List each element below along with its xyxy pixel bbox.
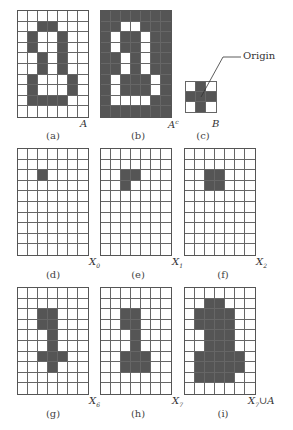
grid-cell (38, 341, 48, 352)
set-label-c: B (212, 118, 219, 129)
grid-cell (141, 191, 151, 202)
grid-cell (111, 330, 121, 341)
grid-cell (68, 383, 78, 394)
origin-label: Origin (243, 50, 275, 61)
grid-cell (141, 96, 151, 107)
grid-cell (235, 213, 245, 224)
grid-cell (18, 43, 28, 54)
grid-cell (141, 213, 151, 224)
grid-cell (18, 309, 28, 320)
grid-cell (18, 362, 28, 373)
grid-cell (141, 373, 151, 384)
grid-cell (195, 234, 205, 245)
grid-cell (58, 341, 68, 352)
grid-cell (151, 373, 161, 384)
grid-cell (18, 22, 28, 33)
grid-cell (121, 43, 131, 54)
grid-cell (215, 244, 225, 255)
grid-cell (111, 202, 121, 213)
grid-cell (151, 244, 161, 255)
grid-cell (206, 82, 216, 92)
grid-cell (195, 330, 205, 341)
grid-cell (185, 309, 195, 320)
grid-cell (111, 373, 121, 384)
grid-cell (185, 160, 195, 171)
grid-cell (185, 170, 195, 181)
grid-cell (205, 352, 215, 363)
grid-cell (225, 191, 235, 202)
grid-cell (121, 288, 131, 299)
grid-cell (78, 288, 88, 299)
grid-cell (141, 223, 151, 234)
grid-cell (235, 223, 245, 234)
grid-cell (38, 149, 48, 160)
grid-cell (58, 43, 68, 54)
grid-cell (78, 32, 88, 43)
grid-cell (151, 330, 161, 341)
grid-cell (141, 181, 151, 192)
grid-cell (28, 244, 38, 255)
grid-cell (58, 309, 68, 320)
grid-cell (245, 362, 255, 373)
grid-cell (195, 373, 205, 384)
grid-cell (245, 160, 255, 171)
grid-cell (245, 191, 255, 202)
grid-cell (48, 330, 58, 341)
grid-cell (38, 309, 48, 320)
grid-cell (38, 202, 48, 213)
grid-cell (225, 352, 235, 363)
grid-cell (111, 213, 121, 224)
grid-cell (141, 22, 151, 33)
grid-cell (28, 181, 38, 192)
grid-cell (195, 341, 205, 352)
grid-cell (58, 11, 68, 22)
grid-cell (58, 191, 68, 202)
grid-cell (38, 53, 48, 64)
grid-cell (58, 75, 68, 86)
grid-cell (78, 43, 88, 54)
grid-cell (235, 288, 245, 299)
grid-cell (28, 53, 38, 64)
grid-cell (111, 223, 121, 234)
set-label-f: X2 (256, 256, 267, 269)
grid-cell (235, 330, 245, 341)
grid-cell (38, 373, 48, 384)
grid-cell (235, 341, 245, 352)
grid-cell (38, 191, 48, 202)
grid-cell (58, 96, 68, 107)
grid-cell (78, 330, 88, 341)
grid-cell (78, 202, 88, 213)
grid-cell (48, 75, 58, 86)
grid-cell (131, 320, 141, 331)
grid-cell (151, 75, 161, 86)
grid-cell (235, 202, 245, 213)
grid-cell (141, 383, 151, 394)
grid-cell (151, 149, 161, 160)
grid-cell (101, 330, 111, 341)
grid-cell (28, 149, 38, 160)
grid-cell (18, 213, 28, 224)
grid-cell (235, 320, 245, 331)
grid-cell (185, 202, 195, 213)
grid-cell (195, 362, 205, 373)
grid-cell (215, 320, 225, 331)
grid-cell (151, 43, 161, 54)
grid-cell (235, 373, 245, 384)
grid-cell (111, 64, 121, 75)
set-label-e: X1 (172, 256, 183, 269)
grid-cell (121, 160, 131, 171)
grid-cell (131, 213, 141, 224)
grid-cell (58, 202, 68, 213)
grid-cell (18, 53, 28, 64)
grid-cell (38, 75, 48, 86)
grid-cell (195, 383, 205, 394)
grid-cell (185, 341, 195, 352)
grid-cell (141, 362, 151, 373)
grid-cell (141, 75, 151, 86)
grid-cell (111, 362, 121, 373)
grid-cell (28, 383, 38, 394)
grid-cell (245, 213, 255, 224)
grid-cell (186, 82, 196, 92)
set-label-g: X6 (89, 395, 100, 408)
grid-cell (68, 244, 78, 255)
